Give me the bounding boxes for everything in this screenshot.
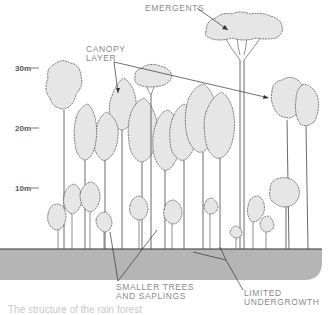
tree-crown (248, 196, 265, 222)
ground (0, 249, 322, 280)
tree-crown (46, 61, 82, 109)
tree-crown (48, 204, 66, 230)
rainforest-diagram: 30m 20m 10m (0, 0, 330, 315)
svg-text:UNDERGROWTH: UNDERGROWTH (244, 297, 320, 307)
svg-text:AND SAPLINGS: AND SAPLINGS (116, 291, 186, 301)
height-scale: 30m 20m 10m (15, 64, 39, 193)
tree-crown (164, 200, 182, 224)
tree-crown (80, 182, 100, 212)
tree-crown (96, 212, 112, 232)
label-canopy-layer: CANOPY LAYER (86, 44, 269, 99)
tree-crown (206, 12, 283, 40)
tree-crown (204, 198, 218, 214)
right-trees (270, 77, 319, 249)
figure-caption: The structure of the rain forest (8, 304, 142, 315)
tree-crown (130, 196, 148, 220)
tree-crown (260, 216, 274, 232)
tree-crown (74, 104, 96, 160)
tree-crown (296, 84, 319, 126)
svg-text:LAYER: LAYER (86, 53, 116, 63)
scale-label-30m: 30m (15, 64, 31, 73)
tree-crown (270, 178, 300, 207)
scale-label-10m: 10m (15, 184, 31, 193)
canopy-trees (46, 61, 235, 249)
scale-label-20m: 20m (15, 124, 31, 133)
tree-crown (64, 184, 82, 214)
svg-text:EMERGENTS: EMERGENTS (145, 3, 204, 13)
tree-crown (94, 112, 118, 160)
